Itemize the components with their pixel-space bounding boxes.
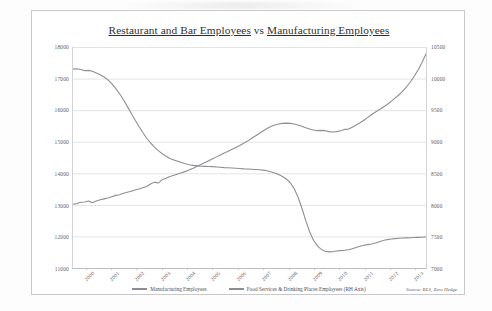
plot-area: 1800017000160001500014000130001200011000… [72,47,427,269]
x-axis-tick-label: 2000 [83,270,95,282]
x-axis-tick-label: 2008 [286,270,298,282]
x-axis-tick-label: 2013 [412,270,424,282]
x-axis-tick-label: 2004 [184,270,196,282]
x-axis-tick-label: 2003 [159,270,171,282]
y-axis-left-tick-label: 16000 [55,107,69,113]
legend-item-manufacturing[interactable]: Manufacturing Employees [132,286,206,292]
y-axis-left-tick-label: 11000 [55,266,69,272]
y-axis-right-tick-label: 8500 [431,171,443,177]
x-axis-tick-label: 2001 [108,270,120,282]
legend-label-food-services: Food Services & Drinking Places Employee… [247,286,366,292]
x-axis-tick-label: 2002 [134,270,146,282]
y-axis-right-tick-label: 8000 [431,203,443,209]
chart-title-separator: vs [251,24,267,36]
x-axis-tick-label: 2011 [362,270,374,282]
chart-legend: Manufacturing Employees Food Services & … [32,286,466,292]
series-canvas [73,47,426,268]
y-axis-left-tick-label: 17000 [55,76,69,82]
y-axis-left-tick-label: 18000 [55,44,69,50]
x-axis-tickmark [390,268,391,270]
chart-container: Restaurant and Bar Employees vs Manufact… [31,10,465,295]
x-axis-tick-label: 2007 [260,270,272,282]
y-axis-left-tick-label: 15000 [55,139,69,145]
series-line [73,54,426,204]
x-axis-tick-label: 2009 [311,270,323,282]
y-axis-right-tick-label: 10000 [431,76,445,82]
x-axis-tickmark [238,268,239,270]
x-axis-tickmark [136,268,137,270]
x-axis-tickmark [415,268,416,270]
legend-label-manufacturing: Manufacturing Employees [150,286,206,292]
series-lines [73,54,426,252]
legend-item-food-services[interactable]: Food Services & Drinking Places Employee… [229,286,366,292]
x-axis-tick-label: 2006 [235,270,247,282]
x-axis-tickmark [187,268,188,270]
source-note: Source: BLS, Zero Hedge [406,287,457,292]
x-axis-tick-label: 2005 [210,270,222,282]
y-axis-right-tick-label: 9500 [431,107,443,113]
y-axis-right-tick-label: 7500 [431,234,443,240]
x-axis-tickmark [289,268,290,270]
x-axis-tickmark [111,268,112,270]
y-axis-right-tick-label: 9000 [431,139,443,145]
x-axis-tickmark [365,268,366,270]
scan-artifact [120,2,360,9]
chart-title: Restaurant and Bar Employees vs Manufact… [32,24,466,36]
screenshot-canvas: Restaurant and Bar Employees vs Manufact… [0,0,492,311]
series-line [73,69,426,252]
y-axis-right-tick-label: 10500 [431,44,445,50]
y-axis-left-tick-label: 12000 [55,234,69,240]
y-axis-left-tick-label: 13000 [55,203,69,209]
x-axis-tickmark [314,268,315,270]
y-axis-right-tick-label: 7000 [431,266,443,272]
chart-title-part-2: Manufacturing Employees [267,24,389,36]
x-axis-tickmark [162,268,163,270]
x-axis-tickmark [86,268,87,270]
x-axis-tickmark [339,268,340,270]
x-axis-tick-label: 2012 [387,270,399,282]
x-axis-tickmark [263,268,264,270]
x-axis-tick-label: 2010 [336,270,348,282]
legend-swatch-food-services [229,288,244,289]
x-axis-tickmark [212,268,213,270]
legend-swatch-manufacturing [132,288,147,289]
gridlines [73,47,426,268]
y-axis-left-tick-label: 14000 [55,171,69,177]
chart-title-part-1: Restaurant and Bar Employees [109,24,251,36]
